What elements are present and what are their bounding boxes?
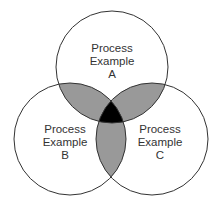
label-c: Process Example C: [138, 123, 183, 161]
svg-text:Example: Example: [43, 136, 88, 148]
svg-text:Process: Process: [91, 42, 133, 54]
svg-text:B: B: [61, 149, 69, 161]
svg-text:Example: Example: [138, 136, 183, 148]
svg-text:Example: Example: [90, 55, 135, 67]
label-a: Process Example A: [90, 42, 135, 80]
svg-text:Process: Process: [44, 123, 86, 135]
venn-diagram: Process Example A Process Example B Proc…: [0, 0, 221, 207]
svg-text:C: C: [156, 149, 164, 161]
svg-text:Process: Process: [139, 123, 181, 135]
svg-text:A: A: [108, 68, 116, 80]
label-b: Process Example B: [43, 123, 88, 161]
